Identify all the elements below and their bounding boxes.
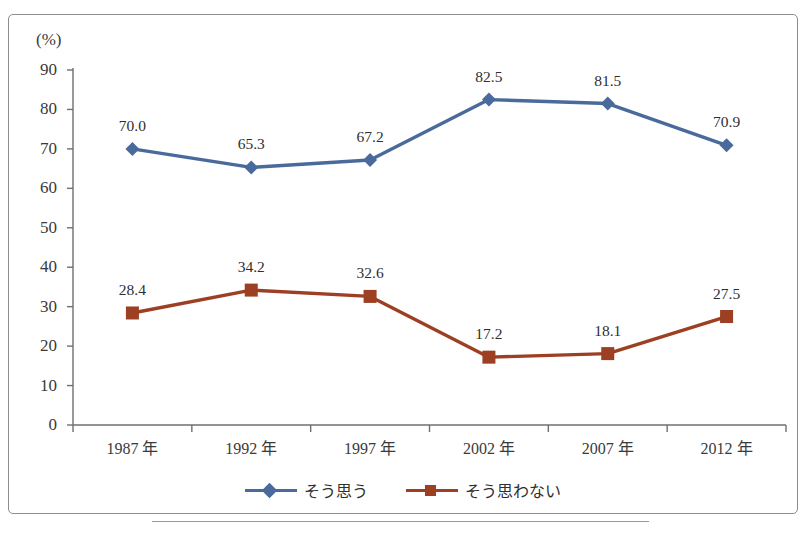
chart-screenshot: (%) 0102030405060708090 1987 年1992 年1997… — [0, 0, 805, 538]
legend-item-agree[interactable]: そう思う — [245, 478, 368, 502]
x-tick-label: 2012 年 — [667, 441, 787, 457]
data-marker-diamond — [125, 142, 139, 156]
data-value-label: 70.0 — [82, 118, 182, 134]
data-marker-square — [720, 310, 733, 323]
y-tick-marks — [67, 70, 73, 425]
data-marker-square — [126, 306, 139, 319]
data-value-label: 81.5 — [558, 73, 658, 89]
y-tick-label: 80 — [21, 100, 57, 117]
line-chart: (%) 0102030405060708090 1987 年1992 年1997… — [0, 0, 805, 538]
x-tick-label: 2007 年 — [548, 441, 668, 457]
y-tick-label: 60 — [21, 179, 57, 196]
data-value-label: 67.2 — [320, 129, 420, 145]
footer-caption — [152, 528, 649, 537]
y-tick-label: 70 — [21, 140, 57, 157]
data-value-label: 34.2 — [201, 259, 301, 275]
data-value-label: 18.1 — [558, 323, 658, 339]
data-marker-diamond — [244, 160, 258, 174]
data-marker-square — [601, 347, 614, 360]
legend-marker-square-icon — [406, 483, 458, 497]
y-tick-label: 0 — [21, 416, 57, 433]
data-marker-square — [245, 284, 258, 297]
y-tick-label: 40 — [21, 258, 57, 275]
y-tick-label: 30 — [21, 298, 57, 315]
y-tick-label: 90 — [21, 61, 57, 78]
data-value-label: 65.3 — [201, 136, 301, 152]
x-tick-label: 1987 年 — [72, 441, 192, 457]
footer-divider — [152, 521, 649, 522]
data-value-label: 17.2 — [439, 326, 539, 342]
data-marker-square — [364, 290, 377, 303]
series-line-agree — [132, 100, 726, 168]
legend-label-disagree: そう思わない — [465, 478, 561, 502]
chart-legend: そう思う そう思わない — [0, 478, 805, 502]
y-tick-label: 50 — [21, 219, 57, 236]
data-value-label: 32.6 — [320, 265, 420, 281]
data-value-label: 70.9 — [677, 114, 777, 130]
legend-item-disagree[interactable]: そう思わない — [406, 478, 561, 502]
x-tick-label: 1997 年 — [310, 441, 430, 457]
x-tick-label: 1992 年 — [191, 441, 311, 457]
data-value-label: 28.4 — [82, 282, 182, 298]
x-tick-marks — [73, 425, 786, 432]
data-value-label: 27.5 — [677, 286, 777, 302]
legend-label-agree: そう思う — [304, 478, 368, 502]
y-tick-label: 20 — [21, 337, 57, 354]
data-marker-diamond — [482, 93, 496, 107]
y-tick-label: 10 — [21, 377, 57, 394]
data-marker-square — [482, 351, 495, 364]
legend-marker-diamond-icon — [245, 483, 297, 497]
data-marker-diamond — [601, 97, 615, 111]
data-marker-diamond — [720, 138, 734, 152]
data-value-label: 82.5 — [439, 69, 539, 85]
x-tick-label: 2002 年 — [429, 441, 549, 457]
data-marker-diamond — [363, 153, 377, 167]
